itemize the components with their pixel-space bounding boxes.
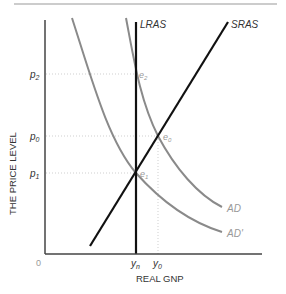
origin-label: 0 — [36, 258, 41, 268]
sras-label: SRAS — [231, 19, 259, 30]
y0-label: y0 — [152, 258, 162, 270]
ad-label: AD — [226, 203, 241, 214]
ad-prime-label: AD' — [226, 228, 244, 239]
e0-label: e0 — [163, 132, 172, 143]
ad-prime-curve — [72, 18, 222, 232]
x-axis-title: REAL GNP — [136, 273, 184, 284]
lras-label: LRAS — [140, 19, 166, 30]
sras-line — [90, 22, 228, 246]
y-axis-title: THE PRICE LEVEL — [7, 132, 18, 215]
as-ad-diagram: LRAS SRAS AD AD' p2 p0 p1 yn y0 0 e2 e0 … — [0, 0, 286, 294]
e1-label: e1 — [140, 169, 148, 180]
p0-label: p0 — [29, 131, 40, 143]
p2-label: p2 — [29, 69, 40, 81]
yn-label: yn — [130, 258, 140, 270]
p1-label: p1 — [29, 168, 40, 180]
e2-label: e2 — [139, 70, 148, 81]
